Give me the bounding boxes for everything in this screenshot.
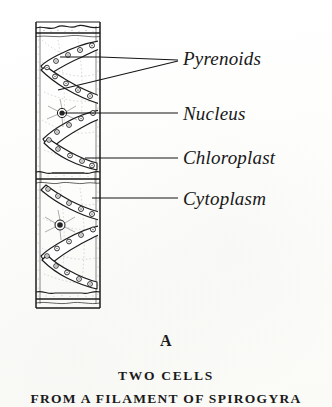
end-wall-top [36,22,100,37]
panel-letter: A [0,332,332,350]
cross-wall-texture [48,175,89,177]
leader-pyrenoids-lower [58,61,178,90]
label-pyrenoids: Pyrenoids [183,49,261,68]
spiral-chloroplast-upper [41,41,100,170]
figure-root: Pyrenoids Nucleus Chloroplast Cytoplasm … [0,0,332,407]
end-wall-bottom [36,292,100,308]
end-wall-top-texture [44,30,94,32]
label-cytoplasm: Cytoplasm [183,189,266,208]
label-chloroplast: Chloroplast [183,148,275,167]
label-nucleus: Nucleus [183,104,246,123]
cross-wall-septum [36,172,100,184]
caption-line-1: TWO CELLS [0,368,332,384]
caption-line-2: FROM A FILAMENT OF SPIROGYRA [0,391,332,407]
nucleus-lower [45,210,75,240]
end-wall-bottom-texture [46,295,94,297]
figure-caption: A TWO CELLS FROM A FILAMENT OF SPIROGYRA [0,332,332,407]
